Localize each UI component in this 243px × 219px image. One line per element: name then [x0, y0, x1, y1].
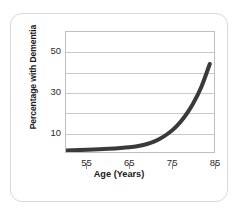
x-tick-label-55: 55 — [71, 157, 101, 168]
x-axis-tick-labels: 55 65 75 85 — [65, 153, 215, 169]
y-tick-label-50: 50 — [39, 46, 61, 56]
y-axis-tick-labels: 50 30 10 — [33, 31, 61, 153]
plot-area — [65, 31, 215, 153]
y-tick-label-10: 10 — [39, 128, 61, 138]
x-tick-label-85: 85 — [200, 157, 230, 168]
dementia-curve — [66, 32, 214, 152]
x-tick-label-65: 65 — [114, 157, 144, 168]
figure-card: Percentage with Dementia 50 30 10 55 65 … — [10, 13, 228, 202]
y-tick-label-30: 30 — [39, 87, 61, 97]
x-axis-title: Age (Years) — [11, 169, 227, 179]
x-tick-label-75: 75 — [157, 157, 187, 168]
